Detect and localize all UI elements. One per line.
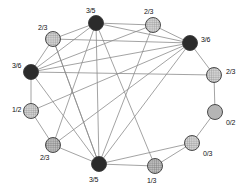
graph-edge bbox=[53, 39, 190, 43]
graph-edge bbox=[99, 43, 190, 164]
graph-node[interactable] bbox=[146, 18, 161, 33]
graph-node[interactable] bbox=[185, 136, 200, 151]
graph-node[interactable] bbox=[46, 32, 61, 47]
node-layer bbox=[24, 16, 223, 174]
node-label: 3/5 bbox=[89, 176, 98, 183]
node-label: 3/6 bbox=[12, 62, 21, 69]
graph-edge bbox=[99, 25, 153, 164]
node-label: 2/3 bbox=[38, 24, 47, 31]
node-label: 2/3 bbox=[144, 8, 153, 15]
graph-edge bbox=[31, 72, 214, 75]
graph-edge bbox=[96, 23, 99, 164]
graph-edge bbox=[99, 143, 192, 164]
node-label: 2/3 bbox=[226, 68, 235, 75]
graph-node[interactable] bbox=[24, 104, 39, 119]
graph-node[interactable] bbox=[92, 157, 107, 172]
graph-node[interactable] bbox=[208, 105, 223, 120]
graph-node[interactable] bbox=[148, 159, 163, 174]
graph-edge bbox=[96, 23, 190, 43]
graph-node[interactable] bbox=[46, 138, 61, 153]
node-label: 2/3 bbox=[40, 154, 49, 161]
graph-node[interactable] bbox=[183, 36, 198, 51]
node-label: 0/3 bbox=[203, 150, 212, 157]
node-label: 3/5 bbox=[86, 7, 95, 14]
graph-edge bbox=[99, 164, 155, 166]
graph-node[interactable] bbox=[207, 68, 222, 83]
graph-diagram: 3/52/33/62/30/20/31/33/52/31/23/62/3 bbox=[0, 0, 249, 192]
graph-node[interactable] bbox=[24, 65, 39, 80]
graph-edge bbox=[96, 23, 155, 166]
node-label: 0/2 bbox=[226, 119, 235, 126]
node-label: 1/2 bbox=[12, 106, 21, 113]
node-label: 3/6 bbox=[201, 36, 210, 43]
graph-edge bbox=[31, 43, 190, 111]
node-label: 1/3 bbox=[147, 177, 156, 184]
graph-node[interactable] bbox=[89, 16, 104, 31]
